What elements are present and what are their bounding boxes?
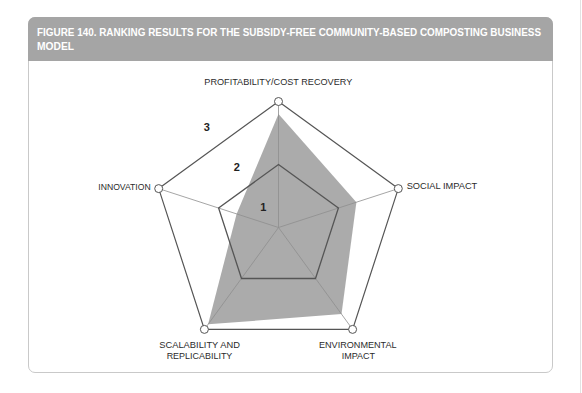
vertex-marker-icon <box>275 98 283 106</box>
axis-label-profitability: PROFITABILITY/COST RECOVERY <box>204 77 352 87</box>
axis-label-environmental-line-1: ENVIRONMENTAL <box>319 340 397 350</box>
vertex-marker-icon <box>394 185 402 193</box>
radar-chart: FIGURE 140. RANKING RESULTS FOR THE SUBS… <box>0 0 582 393</box>
figure-title-line-2: MODEL <box>37 41 74 52</box>
vertex-marker-icon <box>349 325 357 333</box>
axis-label-social-impact: SOCIAL IMPACT <box>407 181 478 191</box>
vertex-marker-icon <box>200 325 208 333</box>
axis-label-innovation: INNOVATION <box>98 182 150 192</box>
figure-title-line-1: FIGURE 140. RANKING RESULTS FOR THE SUBS… <box>37 27 541 38</box>
scale-label-3: 3 <box>204 121 210 133</box>
scale-label-2: 2 <box>234 161 240 173</box>
scale-label-1: 1 <box>260 201 266 213</box>
vertex-marker-icon <box>155 185 163 193</box>
axis-label-scalability-line-1: SCALABILITY AND <box>159 340 240 350</box>
axis-label-scalability-line-2: REPLICABILITY <box>167 351 233 361</box>
axis-label-environmental-line-2: IMPACT <box>342 351 376 361</box>
